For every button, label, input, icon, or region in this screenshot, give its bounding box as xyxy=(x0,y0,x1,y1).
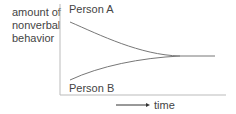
person-b-label: Person B xyxy=(69,82,114,94)
person-b-curve xyxy=(70,56,180,80)
x-axis-label: time xyxy=(154,99,175,111)
arrow-head-icon xyxy=(146,103,150,107)
diagram-plot xyxy=(0,0,236,114)
person-a-curve xyxy=(70,22,215,56)
person-a-label: Person A xyxy=(69,3,114,15)
